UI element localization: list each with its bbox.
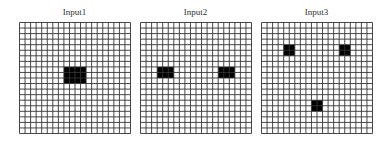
grid-input1 (19, 22, 130, 133)
grid-svg (140, 22, 252, 134)
panel-title: Input3 (261, 7, 372, 17)
grid-input3 (261, 22, 372, 133)
grid-svg (261, 22, 373, 134)
panel-title: Input1 (19, 7, 130, 17)
grid-svg (19, 22, 131, 134)
grid-input2 (140, 22, 251, 133)
panel-title: Input2 (140, 7, 251, 17)
